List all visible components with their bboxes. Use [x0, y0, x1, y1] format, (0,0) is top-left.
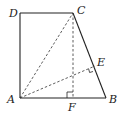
label-c: C — [77, 4, 86, 17]
label-a: A — [6, 93, 15, 106]
label-d: D — [8, 7, 18, 20]
label-b: B — [108, 93, 117, 106]
diagram-canvas: D C E A B F — [0, 0, 125, 116]
right-angle-mark-e — [89, 69, 93, 73]
segment-ae — [20, 66, 95, 98]
segment-ac — [20, 13, 73, 98]
geometry-diagram: D C E A B F — [0, 0, 125, 116]
label-e: E — [96, 56, 105, 69]
label-f: F — [67, 101, 76, 114]
right-angle-mark-f — [67, 92, 73, 98]
